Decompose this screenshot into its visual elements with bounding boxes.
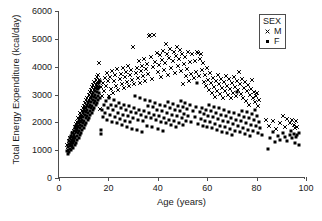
data-point-m (163, 61, 168, 66)
data-point-f (177, 121, 180, 124)
data-point-f (104, 111, 107, 114)
data-point-f (150, 126, 153, 129)
x-tick-label: 100 (298, 183, 313, 193)
data-point-f (222, 119, 225, 122)
data-point-f (184, 102, 187, 105)
data-point-f (225, 132, 228, 135)
x-tick-label: 60 (202, 183, 212, 193)
data-point-f (146, 104, 149, 107)
data-point-f (118, 101, 121, 104)
data-point-f (298, 131, 301, 134)
data-point-f (200, 117, 203, 120)
data-point-f (153, 101, 156, 104)
data-point-f (105, 100, 108, 103)
data-point-f (178, 110, 181, 113)
data-point-f (218, 107, 221, 110)
data-point-m (142, 78, 147, 83)
data-point-f (216, 129, 219, 132)
data-point-f (125, 109, 128, 112)
y-tick-label: 1000 (32, 145, 52, 155)
data-point-f (206, 126, 209, 129)
data-point-f (197, 123, 200, 126)
data-point-f (116, 122, 119, 125)
data-point-m (150, 76, 155, 81)
data-point-f (113, 99, 116, 102)
x-tick-label: 20 (103, 183, 113, 193)
x-tick (59, 177, 60, 181)
data-point-f (123, 103, 126, 106)
data-point-f (151, 106, 154, 109)
data-point-m (97, 61, 102, 66)
data-point-f (168, 106, 171, 109)
x-tick (306, 177, 307, 181)
data-point-f (135, 112, 138, 115)
data-point-f (148, 100, 151, 103)
data-point-f (246, 128, 249, 131)
data-point-f (205, 109, 208, 112)
data-point-f (217, 117, 220, 120)
x-tick-label: 80 (252, 183, 262, 193)
data-point-f (202, 124, 205, 127)
data-point-f (191, 109, 194, 112)
data-point-f (250, 112, 253, 115)
data-point-f (108, 97, 111, 100)
data-point-m (196, 74, 201, 79)
data-point-f (167, 118, 170, 121)
data-point-f (103, 104, 106, 107)
x-tick-label: 0 (56, 183, 61, 193)
data-point-f (119, 117, 122, 120)
data-point-m (199, 51, 204, 56)
data-point-f (234, 118, 237, 121)
data-point-f (139, 96, 142, 99)
y-tick-label: 3000 (32, 90, 52, 100)
data-point-f (111, 120, 114, 123)
data-point-f (214, 123, 217, 126)
data-point-m (179, 68, 184, 73)
data-point-f (158, 103, 161, 106)
data-point-m (274, 127, 279, 132)
data-point-f (201, 107, 204, 110)
data-point-f (211, 127, 214, 130)
data-point-f (183, 112, 186, 115)
data-point-f (180, 116, 183, 119)
data-point-f (120, 107, 123, 110)
data-point-f (258, 120, 261, 123)
y-tick-label: 5000 (32, 34, 52, 44)
data-point-f (99, 79, 102, 82)
data-point-f (252, 119, 255, 122)
legend: SEX MF (259, 14, 286, 49)
data-point-f (112, 109, 115, 112)
data-point-f (140, 114, 143, 117)
data-point-f (156, 128, 159, 131)
data-point-f (291, 137, 294, 140)
data-point-f (244, 121, 247, 124)
data-point-m (152, 33, 157, 38)
data-point-f (256, 131, 259, 134)
data-point-m (246, 102, 251, 107)
data-point-f (204, 119, 207, 122)
data-point-f (188, 104, 191, 107)
data-point-f (196, 82, 199, 85)
data-point-m (264, 117, 269, 122)
legend-title: SEX (263, 16, 282, 26)
data-point-f (99, 132, 102, 135)
data-point-f (138, 108, 141, 111)
data-point-f (271, 131, 274, 134)
data-point-f (269, 137, 272, 140)
data-point-f (136, 129, 139, 132)
data-point-f (235, 90, 238, 93)
data-point-f (233, 129, 236, 132)
data-point-f (219, 124, 222, 127)
data-point-f (98, 92, 101, 95)
y-tick (55, 150, 59, 151)
data-point-f (255, 114, 258, 117)
data-point-f (279, 138, 282, 141)
data-point-f (140, 131, 143, 134)
data-point-f (161, 129, 164, 132)
y-tick (55, 67, 59, 68)
data-point-f (141, 120, 144, 123)
data-point-f (155, 108, 158, 111)
legend-entries: MF (263, 26, 282, 46)
data-point-f (227, 110, 230, 113)
data-point-f (166, 101, 169, 104)
